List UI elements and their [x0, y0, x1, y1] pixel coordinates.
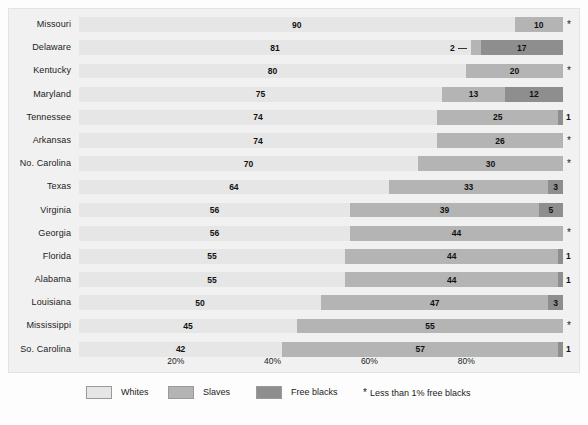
segment-whites: 56: [79, 226, 350, 241]
legend-label: Whites: [121, 387, 149, 397]
segment-free-blacks: 17: [481, 40, 563, 55]
chart-row: Tennessee74251: [9, 106, 581, 129]
segment-value: 2: [450, 43, 455, 53]
segment-slaves: 57: [282, 342, 558, 357]
chart-row: Louisiana50473: [9, 291, 581, 314]
segment-free-blacks: 1: [558, 272, 563, 287]
segment-free-blacks: 1: [558, 249, 563, 264]
row-label-no-carolina: No. Carolina: [9, 152, 71, 175]
stacked-bar: 42571: [79, 342, 563, 357]
segment-slaves: 44: [345, 249, 558, 264]
stacked-bar: 7030: [79, 156, 563, 171]
x-axis-tick: 60%: [361, 356, 378, 366]
leader-line: [458, 48, 467, 49]
segment-value: 26: [495, 136, 504, 146]
segment-value: 1: [566, 251, 571, 261]
segment-value: 12: [529, 89, 538, 99]
chart-row: No. Carolina7030*: [9, 152, 581, 175]
segment-value: 17: [517, 43, 526, 53]
segment-whites: 55: [79, 249, 345, 264]
row-label-texas: Texas: [9, 175, 71, 198]
stacked-bar: 751312: [79, 87, 563, 102]
segment-value: 75: [256, 89, 265, 99]
footnote-asterisk: *: [567, 20, 571, 30]
segment-value: 3: [553, 182, 558, 192]
segment-whites: 55: [79, 272, 345, 287]
segment-slaves: 55: [297, 319, 563, 334]
segment-whites: 45: [79, 319, 297, 334]
row-label-louisiana: Louisiana: [9, 291, 71, 314]
segment-value: 25: [493, 112, 502, 122]
segment-whites: 42: [79, 342, 282, 357]
segment-value: 74: [253, 112, 262, 122]
x-axis-tick: 20%: [167, 356, 184, 366]
legend-swatch-icon: [86, 386, 112, 399]
chart-row: Alabama55441: [9, 268, 581, 291]
segment-whites: 74: [79, 110, 437, 125]
segment-value: 44: [452, 228, 461, 238]
segment-whites: 90: [79, 17, 515, 32]
segment-whites: 81: [79, 40, 471, 55]
bar-rows: Missouri9010*Delaware81217Kentucky8020*M…: [9, 13, 581, 361]
stacked-bar: 50473: [79, 295, 563, 310]
stacked-bar: 56395: [79, 203, 563, 218]
segment-slaves: 33: [389, 180, 549, 195]
segment-value: 10: [534, 20, 543, 30]
row-label-virginia: Virginia: [9, 199, 71, 222]
row-label-kentucky: Kentucky: [9, 59, 71, 82]
segment-slaves: 2: [471, 40, 481, 55]
segment-slaves: 26: [437, 133, 563, 148]
legend-item-free-blacks[interactable]: Free blacks: [256, 386, 338, 399]
segment-value: 30: [486, 159, 495, 169]
segment-value: 39: [440, 205, 449, 215]
stacked-bar: 9010: [79, 17, 563, 32]
row-label-missouri: Missouri: [9, 13, 71, 36]
segment-value: 57: [415, 344, 424, 354]
segment-value: 1: [566, 275, 571, 285]
row-label-mississippi: Mississippi: [9, 314, 71, 337]
segment-value: 90: [292, 20, 301, 30]
stacked-bar: 8020: [79, 64, 563, 79]
chart-row: Texas64333: [9, 175, 581, 198]
segment-value: 55: [425, 321, 434, 331]
chart-row: Virginia56395: [9, 199, 581, 222]
legend-footnote: *Less than 1% free blacks: [363, 387, 470, 398]
segment-value: 56: [210, 228, 219, 238]
segment-value: 5: [549, 205, 554, 215]
segment-value: 42: [176, 344, 185, 354]
legend-swatch-icon: [256, 386, 282, 399]
legend-label: Free blacks: [291, 387, 338, 397]
segment-free-blacks: 1: [558, 342, 563, 357]
row-label-delaware: Delaware: [9, 36, 71, 59]
segment-value: 56: [210, 205, 219, 215]
segment-value: 55: [207, 251, 216, 261]
segment-whites: 74: [79, 133, 437, 148]
segment-free-blacks: 1: [558, 110, 563, 125]
row-label-maryland: Maryland: [9, 83, 71, 106]
segment-value: 45: [183, 321, 192, 331]
footnote-asterisk: *: [567, 228, 571, 238]
segment-value: 44: [447, 251, 456, 261]
segment-whites: 64: [79, 180, 389, 195]
stacked-bar: 55441: [79, 272, 563, 287]
segment-slaves: 44: [350, 226, 563, 241]
segment-whites: 75: [79, 87, 442, 102]
x-axis-tick: 80%: [458, 356, 475, 366]
segment-whites: 50: [79, 295, 321, 310]
segment-whites: 70: [79, 156, 418, 171]
stacked-bar: 64333: [79, 180, 563, 195]
chart-row: Mississippi4555*: [9, 314, 581, 337]
legend-item-whites[interactable]: Whites: [86, 386, 149, 399]
plot-panel: Missouri9010*Delaware81217Kentucky8020*M…: [8, 8, 580, 373]
segment-slaves: 47: [321, 295, 548, 310]
chart-row: Missouri9010*: [9, 13, 581, 36]
chart-row: Georgia5644*: [9, 222, 581, 245]
footnote-asterisk: *: [567, 159, 571, 169]
segment-slaves: 39: [350, 203, 539, 218]
chart-row: Delaware81217: [9, 36, 581, 59]
segment-value: 33: [464, 182, 473, 192]
legend-item-slaves[interactable]: Slaves: [168, 386, 230, 399]
segment-slaves: 44: [345, 272, 558, 287]
segment-value: 70: [244, 159, 253, 169]
footnote-asterisk: *: [567, 66, 571, 76]
